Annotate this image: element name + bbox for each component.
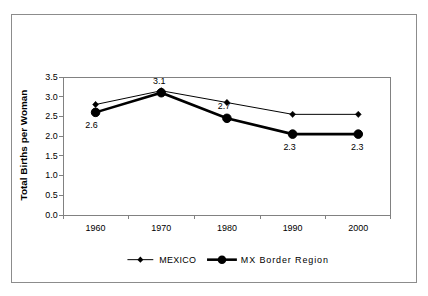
legend-label-mx-border-region: MX Border Region xyxy=(241,255,329,265)
chart-figure: Total Births per Woman 0.0 0.5 1.0 1.5 2… xyxy=(11,14,417,283)
series-marker-mx-border-2000 xyxy=(354,130,363,139)
chart-legend: MEXICO MX Border Region xyxy=(127,255,328,265)
y-tick-label-6: 3.0 xyxy=(45,92,57,102)
y-tick-label-0: 0.0 xyxy=(45,210,57,220)
x-tick-label-1990: 1990 xyxy=(283,223,303,233)
y-tick-label-1: 0.5 xyxy=(45,190,57,200)
legend-marker-circle-icon xyxy=(218,255,227,264)
legend-item-mexico[interactable]: MEXICO xyxy=(127,255,196,265)
data-label-1960: 2.6 xyxy=(85,120,97,130)
series-marker-mx-border-1960 xyxy=(91,108,100,117)
y-axis-title: Total Births per Woman xyxy=(18,90,29,201)
x-tick-label-1970: 1970 xyxy=(151,223,171,233)
data-label-2000: 2.3 xyxy=(351,142,363,152)
series-marker-mx-border-1990 xyxy=(288,130,297,139)
y-tick-label-3: 1.5 xyxy=(45,151,57,161)
x-tick-label-1980: 1980 xyxy=(217,223,237,233)
line-chart: Total Births per Woman 0.0 0.5 1.0 1.5 2… xyxy=(12,15,416,282)
data-label-1970: 3.1 xyxy=(153,76,165,86)
legend-item-mx-border-region[interactable]: MX Border Region xyxy=(207,255,329,265)
y-tick-label-4: 2.0 xyxy=(45,131,57,141)
x-tick-label-2000: 2000 xyxy=(348,223,368,233)
y-tick-label-2: 1.0 xyxy=(45,170,57,180)
y-tick-label-7: 3.5 xyxy=(45,72,57,82)
plot-area xyxy=(63,77,391,215)
series-marker-mx-border-1980 xyxy=(223,114,232,123)
x-tick-label-1960: 1960 xyxy=(86,223,106,233)
series-marker-mx-border-1970 xyxy=(157,88,166,97)
y-tick-label-5: 2.5 xyxy=(45,111,57,121)
data-label-1980: 2.7 xyxy=(218,101,230,111)
data-label-1990: 2.3 xyxy=(283,142,295,152)
legend-marker-diamond-icon xyxy=(137,256,143,262)
legend-label-mexico: MEXICO xyxy=(159,255,196,265)
